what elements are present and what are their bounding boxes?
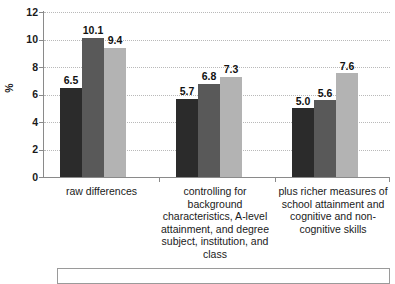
category-label-3-line-2: school attainment and (272, 198, 394, 211)
x-axis-line (43, 177, 390, 178)
x-tick-mark-1 (159, 177, 160, 182)
y-tick-label-2: 2 (12, 144, 38, 155)
bar-value-g1-s1: 6.5 (51, 75, 91, 86)
bar-g3-s1 (292, 108, 314, 177)
bar-value-g2-s1: 5.7 (167, 86, 207, 97)
y-axis-title: % (3, 81, 15, 95)
bar-g2-s1 (176, 99, 198, 177)
y-tick-label-12: 12 (12, 7, 38, 18)
y-tick-mark-8 (39, 67, 44, 68)
y-tick-label-6: 6 (12, 89, 38, 100)
bar-value-g1-s3: 9.4 (95, 35, 135, 46)
bar-value-g2-s3: 7.3 (211, 64, 251, 75)
category-label-2: controlling for background characteristi… (154, 185, 276, 261)
category-label-2-line-3: characteristics, A-level (154, 210, 276, 223)
y-tick-label-10: 10 (12, 34, 38, 45)
legend-box (57, 268, 390, 284)
y-tick-mark-12 (39, 12, 44, 13)
gridline-12 (44, 12, 390, 13)
y-tick-mark-0 (39, 177, 44, 178)
x-tick-mark-2 (275, 177, 276, 182)
bar-g1-s2 (82, 38, 104, 177)
plot-area: 6.5 10.1 9.4 5.7 6.8 7.3 5.0 5.6 7.6 (44, 12, 390, 177)
bar-g3-s2 (314, 100, 336, 177)
bar-value-g3-s3: 7.6 (327, 61, 367, 72)
y-tick-mark-4 (39, 122, 44, 123)
y-tick-label-0: 0 (12, 172, 38, 183)
bar-g2-s3 (220, 77, 242, 177)
bar-value-g3-s2: 5.6 (305, 88, 345, 99)
category-label-2-line-6: class (154, 248, 276, 261)
category-label-2-line-1: controlling for (154, 185, 276, 198)
bar-g1-s1 (60, 88, 82, 177)
category-label-3-line-3: cognitive and non- (272, 210, 394, 223)
y-tick-mark-10 (39, 40, 44, 41)
category-label-2-line-5: subject, institution, and (154, 235, 276, 248)
category-label-2-line-4: attainment, and degree (154, 223, 276, 236)
category-label-3-line-1: plus richer measures of (272, 185, 394, 198)
x-tick-mark-3 (389, 177, 390, 182)
category-label-1: raw differences (44, 185, 159, 198)
y-tick-label-8: 8 (12, 62, 38, 73)
bar-g2-s2 (198, 84, 220, 178)
y-tick-mark-6 (39, 95, 44, 96)
category-label-3-line-4: cognitive skills (272, 223, 394, 236)
category-label-1-line-1: raw differences (44, 185, 159, 198)
y-tick-label-4: 4 (12, 117, 38, 128)
bar-g1-s3 (104, 48, 126, 177)
y-tick-mark-2 (39, 150, 44, 151)
category-label-3: plus richer measures of school attainmen… (272, 185, 394, 235)
category-label-2-line-2: background (154, 198, 276, 211)
